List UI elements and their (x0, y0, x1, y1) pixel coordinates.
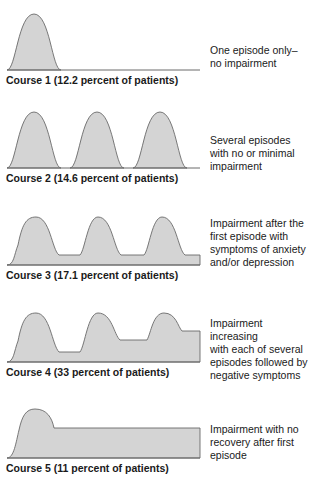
course-1-label: Course 1 (12.2 percent of patients) (6, 74, 178, 86)
course-3-description: Impairment after the first episode with … (210, 217, 310, 269)
course-4: Course 4 (33 percent of patients) Impair… (0, 285, 311, 385)
course-5-label: Course 5 (11 percent of patients) (6, 462, 169, 474)
course-4-description: Impairment increasing with each of sever… (210, 317, 310, 382)
course-3: Course 3 (17.1 percent of patients) Impa… (0, 195, 311, 290)
course-2: Course 2 (14.6 percent of patients) Seve… (0, 100, 311, 195)
course-5: Course 5 (11 percent of patients) Impair… (0, 380, 311, 479)
course-1: Course 1 (12.2 percent of patients) One … (0, 0, 311, 100)
course-3-label: Course 3 (17.1 percent of patients) (6, 269, 178, 281)
course-2-label: Course 2 (14.6 percent of patients) (6, 172, 178, 184)
course-4-label: Course 4 (33 percent of patients) (6, 366, 169, 378)
course-5-description: Impairment with no recovery after first … (210, 423, 310, 462)
course-1-description: One episode only– no impairment (210, 44, 310, 70)
course-2-description: Several episodes with no or minimal impa… (210, 134, 310, 173)
